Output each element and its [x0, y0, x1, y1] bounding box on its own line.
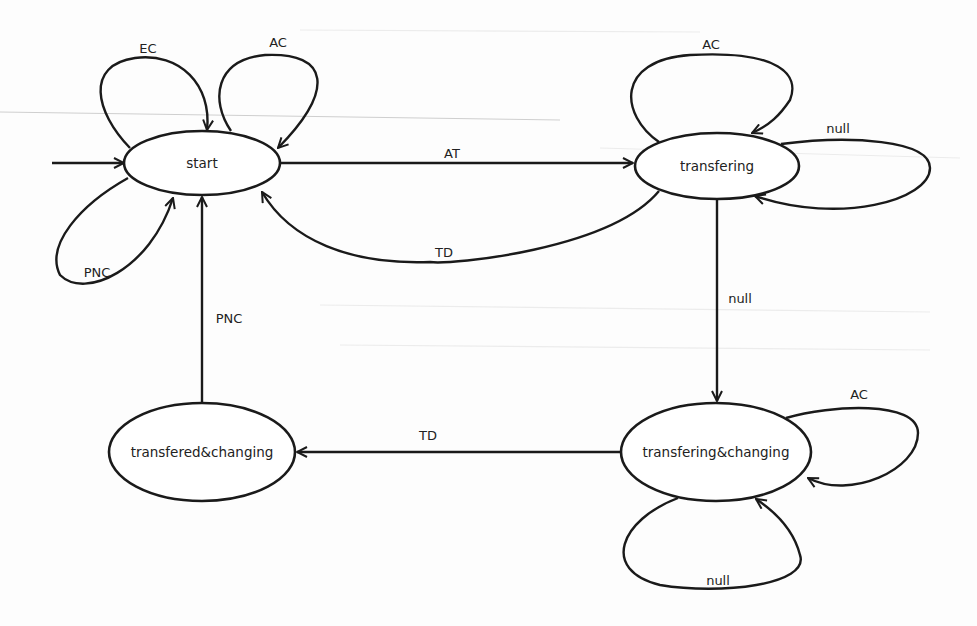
transition-label: AC	[850, 387, 868, 402]
state-label: transfering	[680, 158, 754, 174]
transition-label: AC	[702, 37, 720, 52]
transition-label: PNC	[84, 265, 111, 280]
scan-line	[320, 305, 930, 312]
transition-label: TD	[434, 245, 453, 260]
background-artifacts	[0, 30, 960, 350]
scan-line	[0, 112, 560, 120]
transition-label: PNC	[216, 311, 243, 326]
state-node-transfering: transfering	[635, 133, 799, 199]
transition-label: AC	[269, 35, 287, 50]
transition-label: null	[706, 573, 730, 588]
state-node-transfered-changing: transfered&changing	[109, 403, 295, 501]
state-label: transfering&changing	[643, 444, 790, 460]
states-layer: starttransferingtransfered&changingtrans…	[109, 131, 811, 501]
transition-arrow	[56, 178, 173, 284]
transition-label: null	[826, 121, 850, 136]
state-node-transfering-changing: transfering&changing	[621, 403, 811, 501]
state-label: start	[186, 155, 217, 171]
scan-line	[300, 30, 700, 32]
state-diagram: starttransferingtransfered&changingtrans…	[0, 0, 977, 626]
transition-label: EC	[139, 41, 156, 56]
scan-line	[340, 345, 930, 350]
transition-label: AT	[444, 146, 460, 161]
state-label: transfered&changing	[131, 444, 274, 460]
transition-arrow	[262, 191, 659, 262]
state-node-start: start	[124, 131, 280, 195]
transition-label: TD	[418, 428, 437, 443]
transition-arrow	[631, 54, 792, 142]
transition-label: null	[728, 291, 752, 306]
